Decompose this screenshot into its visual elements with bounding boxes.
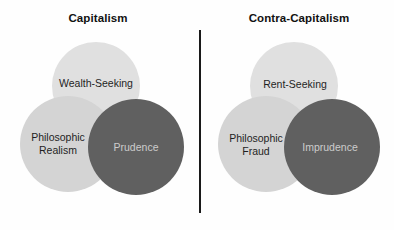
philosophic-fraud-label-line1: Philosophic bbox=[229, 132, 283, 145]
philosophic-fraud-label: Philosophic Fraud bbox=[229, 132, 283, 158]
prudence-label: Prudence bbox=[114, 141, 159, 154]
imprudence-label: Imprudence bbox=[302, 141, 357, 154]
venn-comparison-diagram: Capitalism Wealth-Seeking Philosophic Re… bbox=[0, 0, 394, 230]
contra-capitalism-title: Contra-Capitalism bbox=[249, 12, 350, 24]
divider-line bbox=[199, 30, 201, 213]
philosophic-realism-label-line1: Philosophic bbox=[31, 131, 85, 144]
capitalism-title: Capitalism bbox=[68, 12, 127, 24]
philosophic-realism-label: Philosophic Realism bbox=[31, 131, 85, 157]
wealth-seeking-label: Wealth-Seeking bbox=[59, 77, 133, 90]
philosophic-realism-label-line2: Realism bbox=[31, 144, 85, 157]
rent-seeking-label: Rent-Seeking bbox=[263, 78, 327, 91]
philosophic-fraud-label-line2: Fraud bbox=[229, 145, 283, 158]
